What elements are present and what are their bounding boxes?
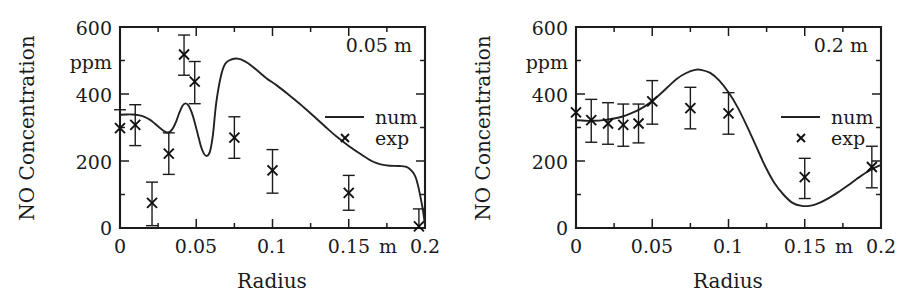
right-yunit-ppm: ppm	[526, 51, 568, 73]
right-ytick-400: 400	[532, 84, 568, 106]
left-xaxis-title: Radius	[237, 269, 307, 293]
right-xunit-m: m	[835, 235, 853, 257]
left-legend: num exp	[325, 106, 418, 149]
right-xtick-0: 0	[570, 235, 582, 257]
right-ytick-200: 200	[532, 151, 568, 173]
left-xtick-0.2: 0.2	[410, 235, 440, 257]
right-xtick-0.15: 0.15	[784, 235, 826, 257]
figure-two-panel-no-concentration: 600 ppm 400 200 0 0 0.05 0.1 0.15 m 0.2 …	[0, 0, 912, 301]
left-xtick-0.15: 0.15	[328, 235, 370, 257]
left-ytick-600: 600	[76, 17, 112, 39]
left-yaxis-title: NO Concentration	[15, 35, 39, 220]
left-ytick-200: 200	[76, 151, 112, 173]
right-ytick-600: 600	[532, 17, 568, 39]
panel-left-plot: 600 ppm 400 200 0 0 0.05 0.1 0.15 m 0.2 …	[0, 0, 456, 301]
right-legend-exp-marker	[797, 134, 805, 142]
panel-left-0.05m: 600 ppm 400 200 0 0 0.05 0.1 0.15 m 0.2 …	[0, 0, 456, 301]
right-panel-annotation: 0.2 m	[814, 34, 868, 56]
right-xtick-0.2: 0.2	[866, 235, 896, 257]
panel-right-plot: 600 ppm 400 200 0 0 0.05 0.1 0.15 m 0.2 …	[456, 0, 912, 301]
left-legend-exp-marker	[341, 134, 349, 142]
left-legend-num-label: num	[375, 106, 418, 128]
left-yunit-ppm: ppm	[70, 51, 112, 73]
right-xtick-0.05: 0.05	[631, 235, 673, 257]
right-xtick-0.1: 0.1	[713, 235, 743, 257]
right-y-ticklabels: 600 ppm 400 200 0	[526, 17, 568, 239]
right-ytick-0: 0	[556, 217, 568, 239]
right-legend-num-label: num	[831, 106, 874, 128]
left-legend-exp-label: exp	[375, 127, 409, 149]
right-yaxis-title: NO Concentration	[471, 35, 495, 220]
left-xtick-0.1: 0.1	[257, 235, 287, 257]
left-ytick-0: 0	[100, 217, 112, 239]
left-panel-annotation: 0.05 m	[346, 34, 412, 56]
left-ytick-400: 400	[76, 84, 112, 106]
left-xtick-0: 0	[114, 235, 126, 257]
left-xtick-0.05: 0.05	[175, 235, 217, 257]
left-xunit-m: m	[379, 235, 397, 257]
left-x-ticklabels: 0 0.05 0.1 0.15 m 0.2	[114, 235, 440, 257]
right-x-ticklabels: 0 0.05 0.1 0.15 m 0.2	[570, 235, 896, 257]
right-legend: num exp	[781, 106, 874, 149]
panel-right-0.2m: 600 ppm 400 200 0 0 0.05 0.1 0.15 m 0.2 …	[456, 0, 912, 301]
right-xaxis-title: Radius	[693, 269, 763, 293]
right-legend-exp-label: exp	[831, 127, 865, 149]
left-y-ticklabels: 600 ppm 400 200 0	[70, 17, 112, 239]
